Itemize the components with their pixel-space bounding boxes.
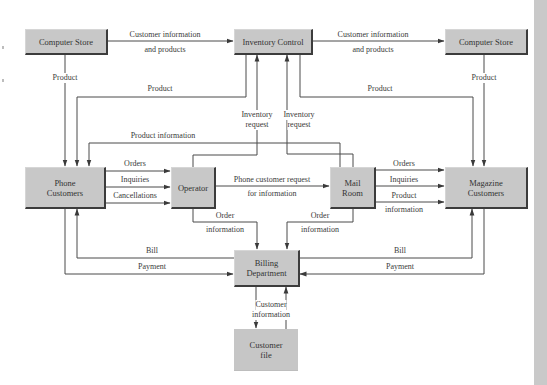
node-magazine-customers: Magazine Customers	[445, 167, 528, 209]
edge-label: Product	[471, 73, 498, 83]
edge-label: Product	[368, 84, 393, 94]
edge-label: Phone customer request	[234, 175, 310, 185]
node-label: Customer file	[249, 340, 282, 360]
edge-label: Inquiries	[390, 175, 418, 185]
edge-label: information	[301, 225, 339, 235]
node-inventory-control: Inventory Control	[234, 29, 313, 55]
edge-label: for information	[247, 189, 296, 199]
edge-label: Orders	[393, 159, 415, 169]
edge-label: Inquiries	[121, 175, 149, 185]
edge-label: request	[245, 120, 268, 130]
edge-label: and products	[144, 45, 185, 55]
edge-label: Product	[52, 73, 79, 83]
node-label: Computer Store	[459, 37, 513, 47]
node-label: Computer Store	[39, 37, 93, 47]
node-mail-room: Mail Room	[330, 167, 376, 209]
node-computer-store-right: Computer Store	[445, 29, 528, 55]
edge-label: information	[385, 205, 423, 215]
edge-label: and products	[352, 45, 393, 55]
node-computer-store-left: Computer Store	[25, 29, 108, 55]
edge-label: Order	[311, 211, 330, 221]
edge-label: Product	[392, 191, 417, 201]
node-operator: Operator	[171, 167, 216, 209]
node-label: Billing Department	[246, 258, 286, 278]
edge-label: Payment	[138, 262, 166, 272]
edge-label: Inventory	[283, 110, 314, 120]
edge-label: Product	[148, 84, 173, 94]
edge-label: Customer information	[338, 30, 409, 40]
edge-label: Inventory	[241, 110, 272, 120]
node-label: Inventory Control	[242, 37, 303, 47]
edge-label: Bill	[146, 246, 158, 256]
edge-label: Order	[216, 211, 235, 221]
edge-label: request	[287, 120, 310, 130]
edge-label: Bill	[394, 246, 406, 256]
node-billing-department: Billing Department	[234, 250, 300, 287]
node-label: Magazine Customers	[468, 178, 504, 198]
edge-label: information	[206, 225, 244, 235]
edge-label: Orders	[124, 159, 146, 169]
edge-label: Product information	[131, 131, 196, 141]
node-phone-customers: Phone Customers	[25, 167, 106, 209]
edge-label: Customer information	[130, 30, 201, 40]
node-customer-file: Customer file	[234, 329, 298, 371]
edge-label: Cancellations	[113, 191, 157, 201]
node-label: Operator	[178, 183, 208, 193]
edge-label: Payment	[386, 262, 414, 272]
edge-label: information	[252, 310, 290, 320]
node-label: Phone Customers	[47, 178, 83, 198]
node-label: Mail Room	[342, 178, 363, 198]
edge-label: Customer	[255, 300, 286, 310]
